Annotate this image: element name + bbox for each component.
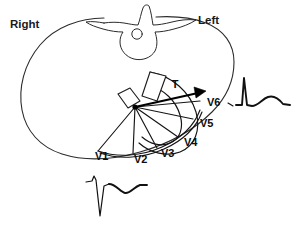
lead-label-v6: V6 — [207, 96, 220, 108]
myocardial-segment-upper — [142, 72, 166, 101]
figure-root: T Right Left V1 V2 V3 V4 V5 V6 — [0, 0, 294, 227]
ecg-v1-waveform — [86, 176, 109, 216]
lead-label-v4: V4 — [184, 136, 198, 148]
ray-to-v3 — [135, 107, 157, 148]
label-left: Left — [198, 14, 219, 26]
ecg-trace-v1 — [86, 176, 147, 216]
lead-label-v3: V3 — [161, 147, 174, 159]
t-vector-label: T — [172, 78, 179, 90]
spinal-canal-circle — [132, 29, 142, 39]
myocardial-segment-septal — [118, 88, 140, 108]
lead-label-v1: V1 — [95, 150, 108, 162]
t-vector-arrowhead — [194, 87, 206, 98]
v6-leader-tick — [228, 103, 233, 106]
ray-to-v1 — [98, 107, 135, 151]
ecg-v1-t-wave — [109, 184, 147, 193]
lead-label-v5: V5 — [200, 117, 213, 129]
ray-to-v2 — [133, 107, 135, 153]
thorax-outline — [21, 17, 234, 159]
lead-label-v2: V2 — [134, 153, 147, 165]
vertebra-group — [86, 5, 196, 60]
label-right: Right — [10, 18, 40, 30]
thorax-outline-group — [21, 17, 234, 159]
thorax-cross-section-diagram: T Right Left V1 V2 V3 V4 V5 V6 — [0, 0, 294, 227]
vertebra-outline — [86, 5, 196, 60]
ecg-v6-waveform — [236, 78, 290, 106]
ecg-trace-v6 — [236, 78, 290, 106]
